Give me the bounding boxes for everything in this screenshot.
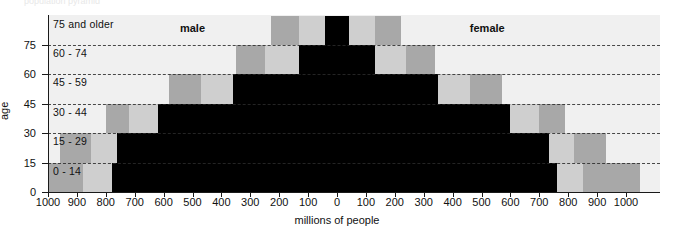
y-tick-3 bbox=[42, 104, 48, 105]
x-tick-label-9: 100 bbox=[299, 196, 317, 208]
x-tick-label-12: 200 bbox=[386, 196, 404, 208]
x-tick-label-7: 300 bbox=[241, 196, 259, 208]
series-label-left: male bbox=[180, 22, 205, 34]
y-tick-label-5: 75 bbox=[12, 39, 36, 51]
age-group-label-4: 60 - 74 bbox=[53, 47, 87, 59]
gridline-age-75 bbox=[48, 45, 660, 46]
x-tick-label-19: 900 bbox=[588, 196, 606, 208]
gridline-age-30 bbox=[48, 133, 660, 134]
pyramid-band-black bbox=[233, 74, 438, 103]
x-tick-label-0: 1000 bbox=[36, 196, 60, 208]
y-tick-0 bbox=[42, 192, 48, 193]
gridline-age-45 bbox=[48, 104, 660, 105]
y-tick-5 bbox=[42, 45, 48, 46]
x-tick-label-18: 800 bbox=[559, 196, 577, 208]
x-tick-label-15: 500 bbox=[472, 196, 490, 208]
age-group-label-2: 30 - 44 bbox=[53, 106, 87, 118]
y-tick-label-2: 30 bbox=[12, 127, 36, 139]
gridline-age-15 bbox=[48, 163, 660, 164]
x-tick-label-20: 1000 bbox=[614, 196, 638, 208]
y-tick-label-3: 45 bbox=[12, 98, 36, 110]
x-tick-label-13: 300 bbox=[415, 196, 433, 208]
x-axis-title: millions of people bbox=[295, 214, 380, 226]
y-axis-title: age bbox=[0, 102, 10, 120]
x-tick-label-1: 900 bbox=[68, 196, 86, 208]
pyramid-band-black bbox=[112, 163, 557, 192]
x-tick-label-2: 800 bbox=[97, 196, 115, 208]
age-group-label-1: 15 - 29 bbox=[53, 135, 87, 147]
series-label-right: female bbox=[470, 22, 505, 34]
pyramid-band-black bbox=[325, 16, 348, 45]
x-tick-label-10: 0 bbox=[334, 196, 340, 208]
x-tick-label-14: 400 bbox=[443, 196, 461, 208]
x-tick-label-4: 600 bbox=[154, 196, 172, 208]
x-tick-label-11: 100 bbox=[357, 196, 375, 208]
x-tick-label-17: 700 bbox=[530, 196, 548, 208]
y-tick-2 bbox=[42, 133, 48, 134]
population-pyramid-chart: population pyramid 0 - 1415 - 2930 - 444… bbox=[0, 0, 675, 236]
x-tick-label-8: 200 bbox=[270, 196, 288, 208]
y-tick-label-0: 0 bbox=[12, 186, 36, 198]
age-group-label-3: 45 - 59 bbox=[53, 76, 87, 88]
y-tick-4 bbox=[42, 74, 48, 75]
y-tick-label-4: 60 bbox=[12, 68, 36, 80]
y-tick-label-1: 15 bbox=[12, 157, 36, 169]
x-tick-label-5: 500 bbox=[183, 196, 201, 208]
x-tick-label-16: 600 bbox=[501, 196, 519, 208]
y-axis-line bbox=[48, 15, 49, 192]
gridline-age-60 bbox=[48, 74, 660, 75]
age-group-label-5: 75 and older bbox=[53, 18, 114, 30]
plot-area: 0 - 1415 - 2930 - 4445 - 5960 - 7475 and… bbox=[48, 15, 660, 192]
age-group-label-0: 0 - 14 bbox=[53, 165, 81, 177]
y-tick-1 bbox=[42, 163, 48, 164]
clipped-header-text: population pyramid bbox=[24, 0, 100, 6]
pyramid-band-black bbox=[158, 104, 511, 133]
x-tick-label-6: 400 bbox=[212, 196, 230, 208]
pyramid-band-black bbox=[299, 45, 374, 74]
x-tick-label-3: 700 bbox=[126, 196, 144, 208]
pyramid-band-black bbox=[117, 133, 549, 162]
